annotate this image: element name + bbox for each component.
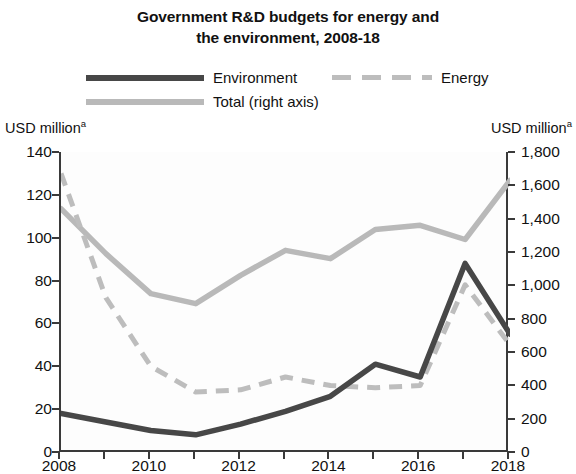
y-tick-right [508,351,515,353]
chart-figure: Government R&D budgets for energy and th… [0,0,576,474]
x-tick [372,452,374,459]
y-tick-label-right: 400 [521,377,547,392]
plot-area [59,152,508,452]
y-tick-label-left: 40 [35,358,52,373]
x-tick [462,452,464,459]
y-tick-right [508,451,515,453]
legend-swatch-energy-icon [332,75,432,80]
y-tick-label-right: 200 [521,411,547,426]
y-tick-label-left: 120 [26,187,52,202]
x-tick [283,452,285,459]
chart-title-line-1: Government R&D budgets for energy and [137,8,439,25]
y-tick-right [508,384,515,386]
x-tick [103,452,105,459]
y-tick-label-right: 1,000 [521,277,560,292]
y-tick-label-left: 140 [26,144,52,159]
y-tick-right [508,251,515,253]
right-axis-unit-label: USD milliona [491,120,572,136]
y-tick-label-right: 1,400 [521,211,560,226]
y-tick-label-right: 1,600 [521,177,560,192]
legend-label-environment: Environment [213,70,297,85]
series-line-energy [61,173,510,392]
left-axis-unit-footnote: a [81,118,86,129]
legend-item-environment: Environment [86,70,297,85]
legend-label-energy: Energy [441,70,489,85]
y-tick-left [52,322,59,324]
series-line-total [61,180,510,303]
y-tick-label-right: 600 [521,344,547,359]
y-tick-left [52,151,59,153]
legend-swatch-environment-icon [86,75,204,81]
x-tick-label: 2008 [29,458,89,474]
left-axis-unit-text: USD million [5,120,81,136]
legend-label-total: Total (right axis) [213,94,319,109]
legend-item-energy: Energy [332,70,489,85]
x-tick-label: 2018 [478,458,538,474]
y-tick-left [52,280,59,282]
x-tick-label: 2010 [119,458,179,474]
right-axis-unit-text: USD million [491,120,567,136]
y-tick-left [52,365,59,367]
y-tick-label-left: 60 [35,315,52,330]
chart-legend: Environment Energy Total (right axis) [0,66,576,112]
y-tick-right [508,218,515,220]
chart-title: Government R&D budgets for energy and th… [0,6,576,48]
y-tick-label-left: 100 [26,230,52,245]
y-tick-label-left: 80 [35,273,52,288]
y-tick-left [52,194,59,196]
y-tick-label-right: 1,800 [521,144,560,159]
x-tick [193,452,195,459]
y-tick-right [508,318,515,320]
left-axis-unit-label: USD milliona [5,120,86,136]
chart-title-line-2: the environment, 2008-18 [0,27,576,48]
y-tick-right [508,284,515,286]
x-tick-label: 2016 [388,458,448,474]
y-tick-label-right: 1,200 [521,244,560,259]
legend-swatch-total-icon [86,99,204,105]
y-tick-left [52,237,59,239]
y-tick-right [508,184,515,186]
x-tick-label: 2014 [298,458,358,474]
right-axis-unit-footnote: a [567,118,572,129]
series-layer [61,152,510,452]
y-tick-right [508,151,515,153]
y-tick-left [52,408,59,410]
y-tick-label-right: 800 [521,311,547,326]
legend-item-total: Total (right axis) [86,94,319,109]
y-tick-label-left: 20 [35,401,52,416]
y-tick-right [508,418,515,420]
series-line-environment [61,263,510,434]
x-tick-label: 2012 [209,458,269,474]
